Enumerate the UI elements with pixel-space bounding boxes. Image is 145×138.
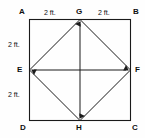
vertex-label-e: E bbox=[17, 66, 22, 74]
diamond-edge-e-g bbox=[30, 20, 81, 71]
vertex-label-g: G bbox=[76, 8, 82, 16]
geometry-figure: A B C D E F G H 2 ft. 2 ft. 2 ft. 2 ft. bbox=[0, 0, 145, 138]
vertex-label-b: B bbox=[133, 8, 139, 16]
diamond-edge-h-e bbox=[30, 70, 81, 121]
dimension-label-top-right: 2 ft. bbox=[98, 9, 110, 16]
vertex-label-c: C bbox=[132, 124, 138, 132]
vertex-label-f: F bbox=[135, 66, 140, 74]
diamond-edge-g-f bbox=[80, 20, 131, 71]
dimension-label-left-top: 2 ft. bbox=[8, 41, 20, 48]
vertex-label-a: A bbox=[19, 8, 25, 16]
diamond-edge-f-h bbox=[80, 70, 131, 121]
vertex-label-h: H bbox=[76, 124, 82, 132]
dimension-label-left-bottom: 2 ft. bbox=[8, 91, 20, 98]
vertex-label-d: D bbox=[20, 124, 26, 132]
dimension-label-top-left: 2 ft. bbox=[44, 9, 56, 16]
